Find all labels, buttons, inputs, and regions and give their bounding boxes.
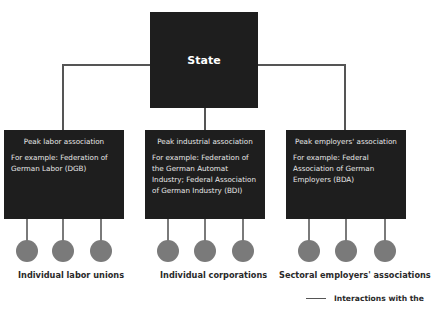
peak-labor-association-box: Peak labor association For example: Fede… bbox=[4, 130, 124, 219]
member-node-employers-association bbox=[335, 240, 357, 262]
member-node-labor-union bbox=[16, 240, 38, 262]
member-stem bbox=[62, 219, 64, 242]
member-stem bbox=[167, 219, 169, 242]
group-label-corporations: Individual corporations bbox=[160, 270, 267, 280]
peak-employers-association-box: Peak employers' association For example:… bbox=[286, 130, 406, 219]
state-node: State bbox=[150, 12, 258, 108]
connector-right-vertical bbox=[344, 64, 346, 130]
member-node-corporation bbox=[232, 240, 254, 262]
member-stem bbox=[242, 219, 244, 242]
member-stem bbox=[204, 219, 206, 242]
state-label: State bbox=[187, 54, 220, 67]
member-node-labor-union bbox=[90, 240, 112, 262]
legend-line-swatch bbox=[306, 298, 326, 300]
member-node-employers-association bbox=[374, 240, 396, 262]
group-label-labor-unions: Individual labor unions bbox=[18, 270, 124, 280]
connector-center-vertical bbox=[204, 108, 206, 130]
member-stem bbox=[26, 219, 28, 242]
member-stem bbox=[100, 219, 102, 242]
association-title: Peak labor association bbox=[11, 136, 117, 147]
legend-label: Interactions with the bbox=[334, 294, 424, 303]
member-node-employers-association bbox=[298, 240, 320, 262]
legend: Interactions with the bbox=[306, 294, 424, 303]
association-example: For example: Federation of the German Au… bbox=[152, 152, 258, 196]
group-label-employers-associations: Sectoral employers' associations bbox=[279, 270, 431, 280]
peak-industrial-association-box: Peak industrial association For example:… bbox=[145, 130, 265, 219]
member-node-corporation bbox=[194, 240, 216, 262]
association-title: Peak industrial association bbox=[152, 136, 258, 147]
member-stem bbox=[345, 219, 347, 242]
member-stem bbox=[308, 219, 310, 242]
association-example: For example: Federal Association of Germ… bbox=[293, 152, 399, 185]
association-title: Peak employers' association bbox=[293, 136, 399, 147]
association-example: For example: Federation of German Labor … bbox=[11, 152, 117, 174]
member-node-corporation bbox=[157, 240, 179, 262]
member-node-labor-union bbox=[52, 240, 74, 262]
connector-left-vertical bbox=[62, 64, 64, 130]
member-stem bbox=[384, 219, 386, 242]
